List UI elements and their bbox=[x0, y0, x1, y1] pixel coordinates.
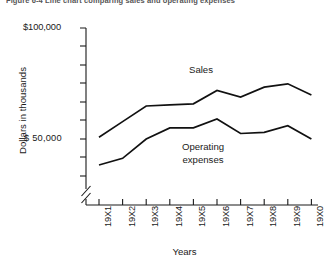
x-tick-label-1: 19X2 bbox=[127, 206, 137, 250]
series-label-sales: Sales bbox=[189, 64, 213, 75]
series-label-operating-expenses: Operating expenses bbox=[166, 140, 240, 166]
y-tick-label-50000: $ 50,000 bbox=[24, 133, 62, 143]
x-tick-label-0: 19X1 bbox=[103, 206, 113, 250]
y-axis-break-icon bbox=[82, 185, 91, 205]
x-tick-label-9: 19X0 bbox=[315, 206, 325, 250]
x-tick-label-2: 19X3 bbox=[150, 206, 160, 250]
line-chart: $100,000 $ 50,000 Dollars in thousands Y… bbox=[0, 0, 329, 264]
y-axis-line bbox=[80, 28, 86, 185]
series-line-sales bbox=[99, 84, 311, 137]
x-tick-label-8: 19X9 bbox=[292, 206, 302, 250]
y-axis-ticks bbox=[80, 46, 86, 176]
chart-canvas bbox=[0, 0, 329, 264]
x-tick-label-7: 19X8 bbox=[268, 206, 278, 250]
x-tick-label-6: 19X7 bbox=[245, 206, 255, 250]
y-tick-label-100000: $100,000 bbox=[23, 22, 61, 32]
series-label-operating-expenses-line2: expenses bbox=[166, 153, 240, 166]
series-label-operating-expenses-line1: Operating bbox=[182, 141, 224, 152]
x-axis-title: Years bbox=[0, 246, 329, 257]
y-axis-title: Dollars in thousands bbox=[17, 51, 28, 171]
x-axis-ticks bbox=[99, 199, 311, 205]
x-tick-label-4: 19X5 bbox=[197, 206, 207, 250]
x-tick-label-3: 19X4 bbox=[174, 206, 184, 250]
x-tick-label-5: 19X6 bbox=[221, 206, 231, 250]
